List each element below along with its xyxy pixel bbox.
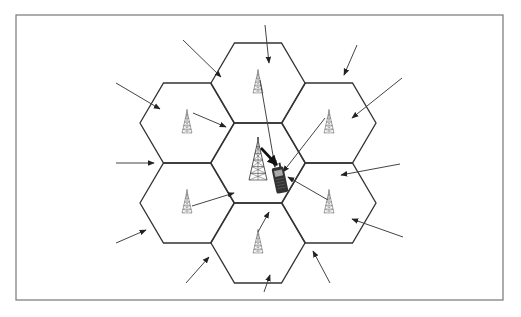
cellular-diagram [0, 0, 521, 317]
interference-arrow [186, 257, 209, 283]
base-stations [182, 69, 334, 253]
interference-arrow [183, 40, 221, 77]
antenna-tower-icon [249, 137, 267, 180]
antenna-tower-icon [324, 109, 334, 133]
interference-arrow-upper-left [193, 113, 226, 127]
interference-arrow [341, 164, 400, 175]
mobile-phone-icon [271, 162, 289, 194]
interference-arrow [344, 45, 357, 75]
interference-arrow-lower-left [192, 193, 234, 206]
interference-arrow-lower-right [288, 177, 328, 200]
interference-arrow [352, 78, 402, 118]
interference-arrow [116, 83, 160, 109]
interference-arrow [265, 25, 269, 63]
external-interference-arrows [116, 25, 403, 292]
interference-arrow [116, 230, 146, 243]
interference-arrows [192, 80, 328, 232]
interference-arrow [313, 251, 330, 283]
interference-arrow [352, 219, 403, 237]
antenna-tower-icon [182, 189, 192, 213]
antenna-tower-icon [253, 229, 263, 253]
diagram-canvas [0, 0, 521, 317]
antenna-tower-icon [324, 189, 334, 213]
antenna-tower-icon [182, 109, 192, 133]
interference-arrow-bottom [258, 212, 269, 232]
